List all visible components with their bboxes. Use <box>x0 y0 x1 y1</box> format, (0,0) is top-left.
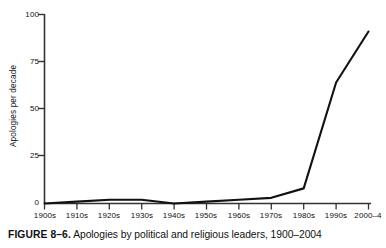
figure-caption: FIGURE 8–6. Apologies by political and r… <box>8 229 372 240</box>
data-series-line <box>45 32 369 204</box>
figure-caption-text: Apologies by political and religious lea… <box>71 229 322 240</box>
x-tick-label-2000-4: 2000–4 <box>346 211 386 220</box>
chart-svg <box>0 0 377 224</box>
chart-plot-area: Apologies per decade 100 75 50 25 0 <box>0 0 377 224</box>
x-axis <box>45 204 372 210</box>
y-axis <box>38 14 45 203</box>
figure-caption-label: FIGURE 8–6. <box>8 229 71 240</box>
